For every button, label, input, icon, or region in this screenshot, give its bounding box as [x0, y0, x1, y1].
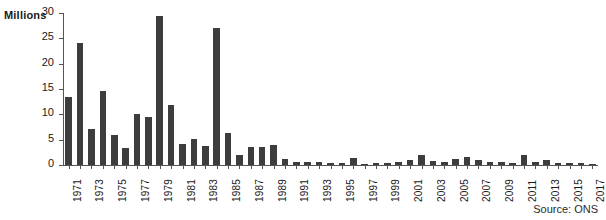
x-tick-label: 2001 — [414, 179, 424, 202]
x-tick-mark — [91, 166, 92, 169]
x-tick-mark — [456, 166, 457, 169]
x-tick-mark — [239, 166, 240, 169]
bar — [156, 16, 163, 165]
bar — [361, 164, 368, 165]
x-tick-mark — [194, 166, 195, 169]
bar — [65, 97, 72, 165]
bar — [452, 159, 459, 165]
bar — [213, 28, 220, 165]
bar — [248, 147, 255, 165]
x-tick-label: 2013 — [551, 179, 561, 202]
x-tick-mark — [365, 166, 366, 169]
y-tick-label: 15 — [24, 81, 54, 93]
bar — [88, 129, 95, 165]
bar — [225, 133, 232, 165]
x-tick-mark — [205, 166, 206, 169]
bar — [464, 157, 471, 165]
x-tick-mark — [319, 166, 320, 169]
x-axis-labels: 1971197319751977197919811983198519871989… — [63, 170, 598, 204]
x-tick-mark — [422, 166, 423, 169]
x-tick-label: 1997 — [369, 179, 379, 202]
bar — [418, 155, 425, 165]
bar — [202, 146, 209, 165]
x-tick-mark — [524, 166, 525, 169]
x-tick-label: 2015 — [574, 179, 584, 202]
x-tick-mark — [467, 166, 468, 169]
x-tick-mark — [296, 166, 297, 169]
x-tick-label: 1973 — [95, 179, 105, 202]
x-tick-mark — [274, 166, 275, 169]
x-tick-mark — [331, 166, 332, 169]
x-tick-mark — [433, 166, 434, 169]
x-tick-mark — [410, 166, 411, 169]
bar — [145, 117, 152, 165]
x-tick-mark — [581, 166, 582, 169]
y-tick-label: 20 — [24, 56, 54, 68]
x-tick-label: 1981 — [187, 179, 197, 202]
x-tick-mark — [570, 166, 571, 169]
x-tick-mark — [80, 166, 81, 169]
bar — [498, 162, 505, 165]
x-tick-label: 1975 — [118, 179, 128, 202]
x-tick-label: 1993 — [323, 179, 333, 202]
bar — [168, 105, 175, 165]
bar — [259, 147, 266, 165]
bars-container — [63, 13, 598, 165]
x-tick-label: 2009 — [505, 179, 515, 202]
x-tick-mark — [342, 166, 343, 169]
x-tick-label: 1979 — [164, 179, 174, 202]
bar — [350, 158, 357, 165]
y-tick-label: 0 — [24, 157, 54, 169]
bar — [589, 164, 596, 165]
y-tick-label: 5 — [24, 132, 54, 144]
x-tick-mark — [547, 166, 548, 169]
bar — [407, 160, 414, 165]
bar — [179, 144, 186, 165]
bar — [475, 160, 482, 165]
x-tick-mark — [478, 166, 479, 169]
y-tick-label: 30 — [24, 5, 54, 17]
x-tick-label: 1987 — [255, 179, 265, 202]
bar — [191, 139, 198, 165]
x-tick-label: 1971 — [73, 179, 83, 202]
x-tick-label: 1983 — [209, 179, 219, 202]
bar-chart: Millions 051015202530 197119731975197719… — [0, 0, 606, 220]
bar — [122, 148, 129, 165]
x-tick-mark — [513, 166, 514, 169]
x-tick-mark — [217, 166, 218, 169]
x-tick-label: 1991 — [300, 179, 310, 202]
bar — [111, 135, 118, 165]
x-tick-label: 2007 — [482, 179, 492, 202]
x-tick-mark — [558, 166, 559, 169]
x-tick-label: 1999 — [391, 179, 401, 202]
bar — [555, 163, 562, 165]
x-tick-mark — [228, 166, 229, 169]
bar — [395, 162, 402, 165]
x-tick-mark — [171, 166, 172, 169]
x-tick-label: 1995 — [346, 179, 356, 202]
x-tick-mark — [376, 166, 377, 169]
x-tick-mark — [490, 166, 491, 169]
bar — [304, 162, 311, 165]
x-tick-mark — [114, 166, 115, 169]
x-tick-mark — [137, 166, 138, 169]
x-tick-mark — [285, 166, 286, 169]
x-tick-mark — [387, 166, 388, 169]
bar — [100, 91, 107, 165]
y-tick-label: 10 — [24, 106, 54, 118]
bar — [293, 162, 300, 165]
x-tick-mark — [183, 166, 184, 169]
x-tick-mark — [501, 166, 502, 169]
x-tick-label: 1977 — [141, 179, 151, 202]
bar — [430, 161, 437, 165]
x-tick-mark — [251, 166, 252, 169]
bar — [487, 162, 494, 165]
bar — [373, 163, 380, 165]
x-tick-label: 1985 — [232, 179, 242, 202]
bar — [441, 162, 448, 165]
x-tick-label: 2017 — [596, 179, 606, 202]
bar — [339, 163, 346, 165]
y-axis-ticks: 051015202530 — [0, 13, 63, 166]
bar — [327, 163, 334, 165]
x-tick-mark — [353, 166, 354, 169]
